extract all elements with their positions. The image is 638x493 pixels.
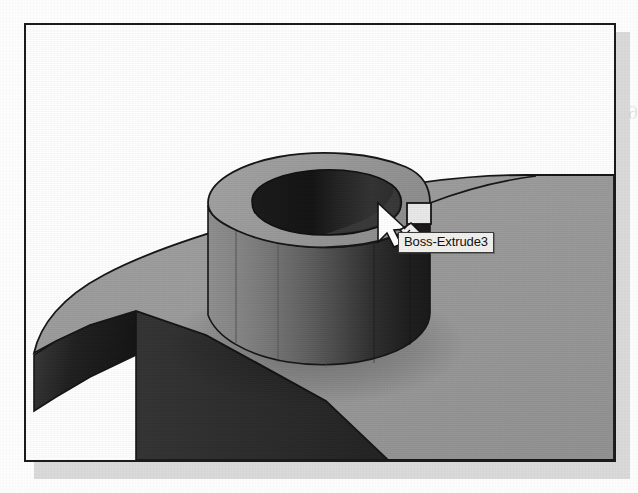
3d-model-graphic[interactable]: [26, 25, 614, 460]
tooltip-label: Boss-Extrude3: [404, 234, 488, 249]
cad-viewport[interactable]: Boss-Extrude3: [26, 25, 614, 460]
feature-name-tooltip: Boss-Extrude3: [398, 232, 494, 253]
scanned-page: 6Set the extruded distance to 0.08 inche…: [0, 0, 638, 493]
boss-bore[interactable]: [252, 170, 401, 235]
screenshot-frame: Boss-Extrude3: [24, 23, 616, 462]
